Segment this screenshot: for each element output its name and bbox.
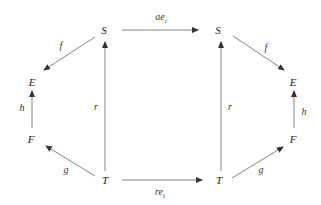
node-left-T: T bbox=[102, 175, 108, 186]
label-bottom-base: re bbox=[155, 186, 163, 197]
node-left-S: S bbox=[101, 25, 107, 36]
node-right-T: T bbox=[216, 175, 222, 186]
arrow-right-f bbox=[233, 36, 284, 70]
label-left-g: g bbox=[64, 165, 69, 175]
arrow-left-g bbox=[46, 146, 95, 176]
node-left-E: E bbox=[29, 77, 36, 88]
label-left-h: h bbox=[20, 103, 25, 113]
node-right-E: E bbox=[290, 77, 297, 88]
arrows-layer bbox=[0, 0, 321, 205]
label-bottom-re: rei bbox=[155, 187, 165, 200]
label-right-h: h bbox=[302, 107, 307, 117]
label-left-r: r bbox=[94, 102, 98, 112]
label-top-ae: aei bbox=[155, 12, 166, 25]
node-right-F: F bbox=[290, 134, 297, 145]
label-top-sub: i bbox=[165, 17, 167, 25]
label-bottom-sub: i bbox=[163, 192, 165, 200]
label-right-f: f bbox=[265, 43, 268, 53]
arrow-left-f bbox=[44, 37, 95, 70]
label-right-r: r bbox=[228, 102, 232, 112]
node-left-F: F bbox=[28, 134, 35, 145]
arrow-right-g bbox=[232, 147, 283, 178]
label-right-g: g bbox=[259, 165, 264, 175]
commutative-diagram: S E F T S E F T f h g r aei rei r f h g bbox=[0, 0, 321, 205]
label-left-f: f bbox=[60, 41, 63, 51]
node-right-S: S bbox=[215, 25, 221, 36]
